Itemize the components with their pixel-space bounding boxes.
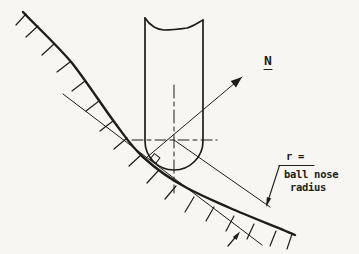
normal-label: N [264, 53, 272, 68]
radius-label-line1: r = [286, 150, 304, 162]
paper-background [0, 0, 359, 254]
radius-label-line2: ball nose [284, 168, 338, 180]
figure-ball-nose-cutter-diagram: N r = ball nose radius [0, 0, 359, 254]
radius-label-line3: radius [290, 181, 326, 193]
